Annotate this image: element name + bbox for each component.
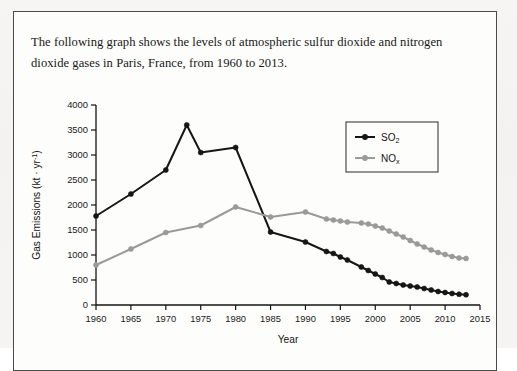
data-point-SO2	[331, 251, 336, 256]
data-point-SO2	[338, 255, 343, 260]
legend-label-sub-NOx: x	[396, 157, 400, 166]
x-tick-label: 2000	[365, 313, 386, 324]
y-tick-label: 500	[72, 274, 88, 285]
chart-figure: 05001000150020002500300035004000 1960196…	[14, 86, 498, 354]
y-tick-label: 3000	[67, 149, 88, 160]
data-point-SO2	[457, 292, 462, 297]
data-point-NOx	[401, 235, 406, 240]
data-point-SO2	[436, 289, 441, 294]
prompt-text: The following graph shows the levels of …	[31, 32, 483, 74]
data-point-NOx	[198, 223, 203, 228]
data-point-NOx	[457, 256, 462, 261]
data-point-SO2	[366, 268, 371, 273]
data-point-NOx	[373, 224, 378, 229]
data-point-SO2	[184, 123, 189, 128]
data-point-NOx	[303, 210, 308, 215]
data-point-SO2	[394, 281, 399, 286]
x-tick-label: 1960	[86, 313, 107, 324]
data-point-NOx	[128, 247, 133, 252]
data-point-SO2	[373, 272, 378, 277]
data-point-NOx	[366, 222, 371, 227]
x-tick-label: 1980	[225, 313, 246, 324]
data-point-SO2	[408, 284, 413, 289]
data-point-SO2	[387, 280, 392, 285]
data-point-SO2	[163, 168, 168, 173]
y-tick-label: 1000	[67, 249, 88, 260]
y-tick-label: 2500	[67, 174, 88, 185]
data-point-SO2	[128, 192, 133, 197]
data-point-NOx	[436, 250, 441, 255]
data-point-SO2	[303, 240, 308, 245]
data-point-NOx	[415, 242, 420, 247]
data-point-SO2	[198, 150, 203, 155]
x-tick-label: 2015	[470, 313, 491, 324]
data-point-NOx	[233, 205, 238, 210]
data-point-SO2	[464, 292, 469, 297]
data-point-SO2	[380, 275, 385, 280]
x-tick-label: 1975	[190, 313, 211, 324]
data-point-SO2	[422, 286, 427, 291]
y-axis-title-tail: )	[31, 150, 42, 153]
data-point-NOx	[394, 232, 399, 237]
x-axis-title: Year	[278, 334, 299, 345]
data-point-NOx	[163, 230, 168, 235]
data-point-NOx	[387, 229, 392, 234]
data-point-NOx	[380, 226, 385, 231]
data-point-NOx	[450, 254, 455, 259]
y-tick-label: 4000	[67, 99, 88, 110]
data-point-SO2	[450, 291, 455, 296]
data-point-NOx	[331, 218, 336, 223]
question-card: The following graph shows the levels of …	[13, 11, 497, 371]
legend-label-sub-SO2: 2	[395, 136, 399, 145]
data-point-NOx	[422, 245, 427, 250]
data-point-NOx	[268, 215, 273, 220]
y-tick-label: 2000	[67, 199, 88, 210]
data-point-SO2	[233, 145, 238, 150]
data-point-NOx	[94, 263, 99, 268]
data-point-NOx	[443, 252, 448, 257]
data-point-SO2	[429, 288, 434, 293]
x-tick-label: 1990	[295, 313, 316, 324]
data-point-NOx	[429, 248, 434, 253]
x-axis: 1960196519701975198019851990199520002005…	[86, 305, 491, 324]
data-point-NOx	[464, 256, 469, 261]
legend-swatch-marker-SO2	[362, 134, 368, 140]
x-tick-label: 1965	[120, 313, 141, 324]
legend-box	[346, 122, 438, 172]
emissions-line-chart: 05001000150020002500300035004000 1960196…	[14, 86, 498, 354]
y-tick-label: 0	[83, 299, 88, 310]
data-point-NOx	[338, 219, 343, 224]
data-point-SO2	[345, 258, 350, 263]
x-tick-label: 1985	[260, 313, 281, 324]
data-point-SO2	[268, 230, 273, 235]
x-tick-label: 2005	[400, 313, 421, 324]
data-point-SO2	[401, 283, 406, 288]
data-point-NOx	[408, 238, 413, 243]
x-tick-label: 1995	[330, 313, 351, 324]
data-point-SO2	[359, 265, 364, 270]
data-point-NOx	[359, 221, 364, 226]
data-point-SO2	[443, 290, 448, 295]
legend-swatch-marker-NOx	[362, 155, 368, 161]
y-tick-label: 3500	[67, 124, 88, 135]
data-point-NOx	[345, 220, 350, 225]
data-point-SO2	[94, 214, 99, 219]
x-tick-label: 2010	[435, 313, 456, 324]
x-tick-label: 1970	[155, 313, 176, 324]
y-axis-title: Gas Emissions (kt · yr-1)	[30, 150, 42, 259]
data-point-SO2	[324, 249, 329, 254]
y-axis: 05001000150020002500300035004000	[67, 99, 96, 310]
data-point-NOx	[324, 217, 329, 222]
data-point-SO2	[415, 285, 420, 290]
y-tick-label: 1500	[67, 224, 88, 235]
chart-legend[interactable]: SO2NOx	[346, 122, 438, 172]
